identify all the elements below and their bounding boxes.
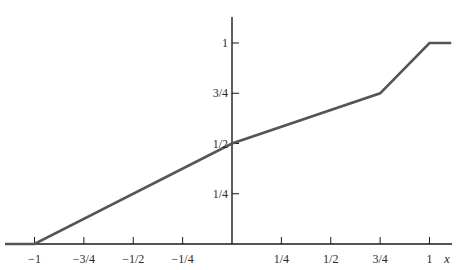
- function-curve: [5, 43, 451, 244]
- chart: −1−3/4−1/2−1/41/41/23/411/41/23/41x: [0, 0, 464, 270]
- axes: [5, 17, 452, 244]
- x-tick-label: −1: [28, 252, 41, 266]
- plot-area: [5, 43, 451, 244]
- y-tick-label: 1/4: [213, 187, 228, 201]
- y-tick-label: 1/2: [213, 137, 228, 151]
- x-tick-label: −1/2: [122, 252, 144, 266]
- x-tick-label: 1: [427, 252, 433, 266]
- y-tick-label: 1: [222, 36, 228, 50]
- tick-labels: −1−3/4−1/2−1/41/41/23/411/41/23/41x: [28, 36, 450, 266]
- y-tick-label: 3/4: [213, 86, 228, 100]
- x-tick-label: −3/4: [73, 252, 95, 266]
- x-tick-label: 1/4: [274, 252, 289, 266]
- x-axis-label: x: [443, 251, 450, 266]
- x-tick-label: −1/4: [172, 252, 194, 266]
- x-tick-label: 3/4: [372, 252, 387, 266]
- x-tick-label: 1/2: [323, 252, 338, 266]
